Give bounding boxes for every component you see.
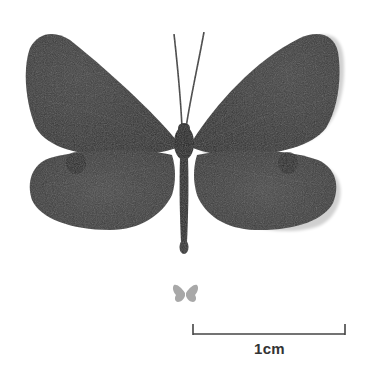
- butterfly-specimen: [0, 0, 371, 365]
- scale-bar: [193, 324, 345, 335]
- life-size-silhouette: [173, 285, 198, 302]
- right-hindwing: [194, 150, 336, 230]
- scale-bar-label: 1cm: [192, 340, 347, 357]
- left-antenna: [174, 34, 182, 128]
- abdomen-tip: [180, 240, 189, 254]
- head: [178, 123, 190, 133]
- left-hindwing-spot: [66, 152, 86, 174]
- right-forewing: [193, 34, 340, 156]
- right-hindwing-spot: [278, 152, 298, 174]
- left-forewing: [26, 34, 176, 156]
- left-hindwing: [30, 150, 175, 230]
- abdomen: [180, 158, 189, 248]
- right-antenna: [186, 32, 204, 128]
